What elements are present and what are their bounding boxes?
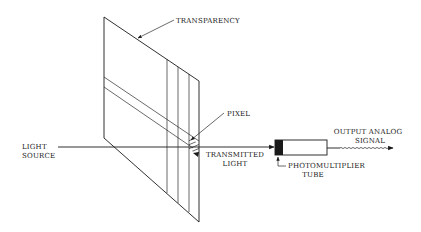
pixel-label: PIXEL	[227, 110, 250, 118]
svg-text:LIGHT: LIGHT	[223, 160, 248, 168]
output-label-line1: OUTPUT ANALOG	[334, 128, 403, 136]
microdensitometer-diagram: TRANSPARENCY PIXEL LIGHT SOURCE TRANSMIT…	[0, 0, 421, 232]
output-label-line2: SIGNAL	[355, 137, 385, 145]
svg-text:LIGHT: LIGHT	[22, 143, 47, 151]
pixel-callout: PIXEL	[191, 110, 250, 140]
transmitted-light-label: TRANSMITTED LIGHT	[206, 151, 264, 168]
light-source-label: LIGHT SOURCE	[22, 143, 55, 160]
photomultiplier-tube: PHOTOMULTIPLIER TUBE	[275, 140, 366, 179]
transparency-callout: TRANSPARENCY	[138, 17, 240, 38]
output-signal: OUTPUT ANALOG SIGNAL	[327, 128, 402, 149]
transparency-sheet	[104, 17, 199, 222]
svg-text:SOURCE: SOURCE	[22, 152, 55, 160]
transparency-label: TRANSPARENCY	[176, 17, 240, 25]
pmt-label-line2: TUBE	[302, 171, 324, 179]
photocathode-cap	[275, 140, 283, 155]
svg-text:TRANSMITTED: TRANSMITTED	[206, 151, 264, 159]
pmt-label-line1: PHOTOMULTIPLIER	[288, 162, 366, 170]
